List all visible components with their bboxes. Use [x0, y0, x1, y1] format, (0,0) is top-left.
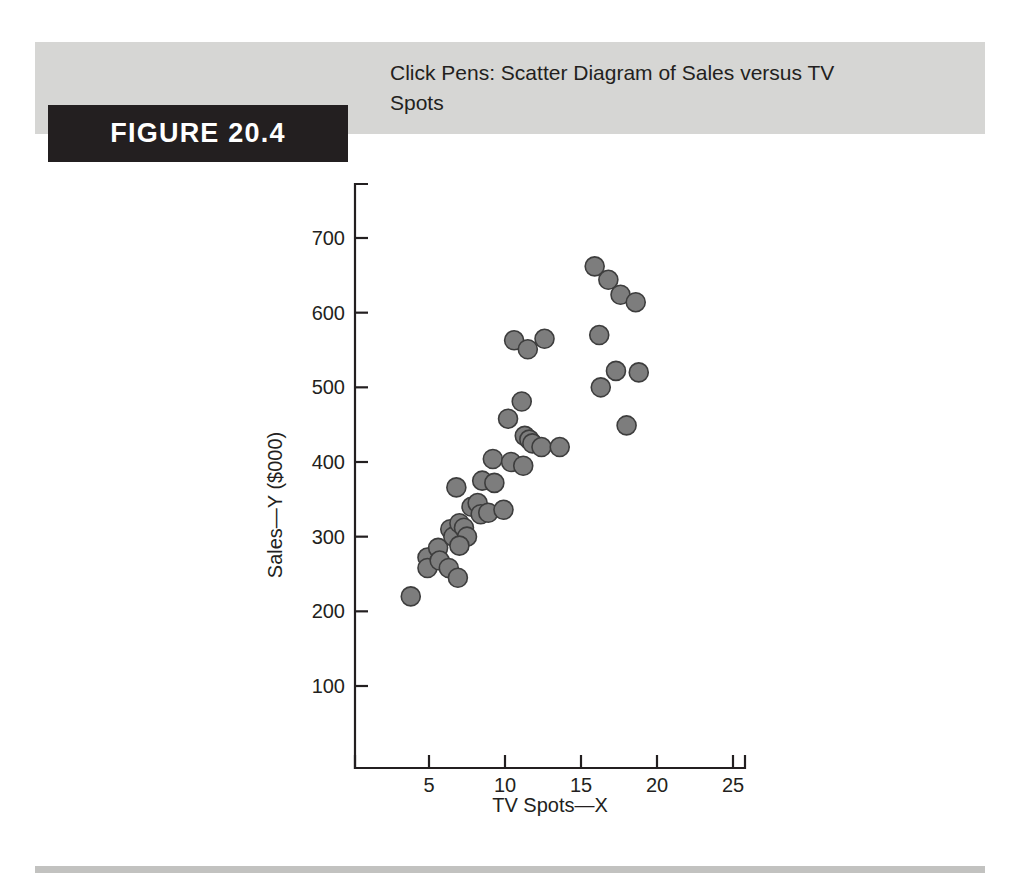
- data-point: [585, 257, 604, 276]
- data-point: [515, 426, 534, 445]
- data-point: [512, 392, 531, 411]
- data-point: [448, 568, 467, 587]
- data-point: [518, 340, 537, 359]
- y-axis-ticks: 100200300400500600700: [312, 227, 368, 697]
- data-point: [441, 520, 460, 539]
- data-point: [606, 361, 625, 380]
- data-point: [485, 473, 504, 492]
- data-point: [590, 326, 609, 345]
- x-tick-label: 5: [423, 774, 434, 796]
- data-point: [447, 478, 466, 497]
- data-point: [479, 503, 498, 522]
- data-point: [535, 329, 554, 348]
- data-point: [444, 527, 463, 546]
- figure-title: Click Pens: Scatter Diagram of Sales ver…: [390, 58, 850, 118]
- y-tick-label: 600: [312, 302, 345, 324]
- y-tick-label: 700: [312, 227, 345, 249]
- x-tick-label: 25: [722, 774, 744, 796]
- footer-divider: [35, 866, 985, 873]
- y-axis-line: [355, 184, 368, 768]
- data-point: [626, 293, 645, 312]
- data-point: [430, 551, 449, 570]
- data-point: [450, 514, 469, 533]
- data-point: [418, 559, 437, 578]
- data-points-group: [401, 257, 648, 606]
- x-tick-label: 15: [570, 774, 592, 796]
- y-tick-label: 200: [312, 600, 345, 622]
- data-point: [483, 450, 502, 469]
- data-point: [523, 434, 542, 453]
- y-tick-label: 100: [312, 675, 345, 697]
- data-point: [494, 500, 513, 519]
- x-tick-label: 10: [494, 774, 516, 796]
- data-point: [520, 430, 539, 449]
- data-point: [473, 471, 492, 490]
- data-point: [629, 363, 648, 382]
- data-point: [401, 587, 420, 606]
- data-point: [429, 538, 448, 557]
- data-point: [591, 378, 610, 397]
- data-point: [505, 331, 524, 350]
- x-axis-title: TV Spots—X: [492, 794, 608, 816]
- y-tick-label: 400: [312, 451, 345, 473]
- data-point: [458, 527, 477, 546]
- data-point: [550, 438, 569, 457]
- data-point: [471, 505, 490, 524]
- y-axis-title: Sales—Y ($000): [264, 432, 286, 578]
- data-point: [611, 285, 630, 304]
- data-point: [599, 270, 618, 289]
- data-point: [617, 416, 636, 435]
- data-point: [468, 494, 487, 513]
- data-point: [418, 548, 437, 567]
- data-point: [499, 409, 518, 428]
- data-point: [439, 559, 458, 578]
- y-tick-label: 300: [312, 526, 345, 548]
- x-axis-ticks: 510152025: [423, 755, 744, 796]
- data-point: [514, 456, 533, 475]
- x-tick-label: 20: [646, 774, 668, 796]
- data-point: [454, 518, 473, 537]
- data-point: [532, 438, 551, 457]
- figure-number-tag: FIGURE 20.4: [48, 105, 348, 162]
- data-point: [450, 536, 469, 555]
- x-axis-line: [355, 755, 745, 768]
- data-point: [502, 452, 521, 471]
- y-tick-label: 500: [312, 376, 345, 398]
- data-point: [462, 497, 481, 516]
